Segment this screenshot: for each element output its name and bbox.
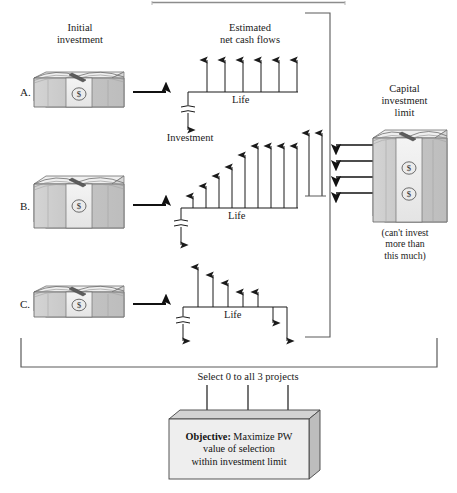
capital-limit-arrows xyxy=(336,145,375,193)
objective-line3: within investment limit xyxy=(172,456,306,468)
objective-text: Objective: Maximize PW value of selectio… xyxy=(172,431,306,468)
svg-text:$: $ xyxy=(77,89,82,99)
project-label-b: B. xyxy=(20,200,30,212)
svg-text:$: $ xyxy=(77,201,82,211)
cash-stack-icon-b: $ xyxy=(34,176,124,228)
cash-stack-icon-a: $ xyxy=(34,72,124,107)
header-initial-investment: Initial investment xyxy=(32,22,128,46)
svg-text:$: $ xyxy=(77,301,81,310)
project-c-group: $ xyxy=(34,267,287,341)
objective-line1: Maximize PW xyxy=(231,431,293,442)
life-label-b: Life xyxy=(228,210,246,221)
select-projects-label: Select 0 to all 3 projects xyxy=(168,371,328,383)
project-label-c: C. xyxy=(20,298,30,310)
project-b-group: $ xyxy=(34,146,298,245)
project-a-group: $ xyxy=(34,60,298,130)
svg-text:$: $ xyxy=(407,189,412,199)
project-label-a: A. xyxy=(20,86,31,98)
investment-label: Investment xyxy=(156,132,224,144)
cash-stack-icon-c: $ xyxy=(34,286,124,317)
project-collector-bracket xyxy=(305,13,330,337)
diagram-canvas: $ xyxy=(0,0,457,493)
project-c-cashflow-chart xyxy=(176,267,287,341)
objective-lead: Objective: xyxy=(186,431,231,442)
objective-line2: value of selection xyxy=(172,443,306,455)
header-capital-investment-limit: Capital investment limit xyxy=(362,83,447,120)
project-b-cashflow-chart xyxy=(174,146,298,245)
top-frame-rule xyxy=(152,1,345,5)
capital-limit-note: (can't invest more than this much) xyxy=(358,227,452,261)
life-label-a: Life xyxy=(232,94,250,105)
svg-text:$: $ xyxy=(407,163,412,173)
header-estimated-cash-flows: Estimated net cash flows xyxy=(190,22,310,46)
life-label-c: Life xyxy=(224,309,242,320)
capital-limit-stack-icon: $ $ xyxy=(373,130,447,222)
